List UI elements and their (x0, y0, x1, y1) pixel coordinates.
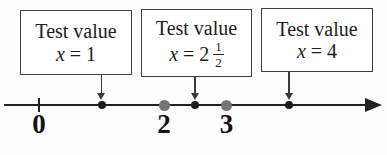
test-value-title: Test value (156, 17, 237, 39)
test-value-expression: x = 1 (56, 43, 96, 65)
variable-symbol: x (56, 43, 65, 65)
down-arrow (101, 75, 103, 93)
number-line-axis (4, 104, 368, 106)
variable-symbol: x (297, 40, 306, 62)
down-arrow (194, 77, 196, 93)
equals-sign: = (311, 40, 322, 62)
test-value-number: 1 (86, 43, 96, 65)
test-value-title: Test value (276, 18, 357, 40)
test-value-box-2: Test value x = 2 1 2 (141, 9, 252, 77)
right-arrowhead-icon (365, 98, 382, 112)
test-point-dot (98, 101, 106, 109)
test-value-title: Test value (35, 20, 116, 42)
variable-symbol: x (169, 43, 178, 65)
test-value-whole-number: 2 (199, 43, 209, 65)
down-arrow (288, 72, 290, 93)
tick-label: 3 (220, 110, 234, 140)
test-value-expression: x = 4 (297, 40, 337, 62)
boundary-point-dot (159, 100, 170, 111)
number-line-test-values-figure: Test value x = 1 Test value x = 2 1 2 Te… (0, 0, 387, 155)
tick-label: 2 (157, 110, 171, 140)
test-point-dot (191, 101, 199, 109)
test-value-expression: x = 2 1 2 (169, 40, 224, 69)
test-value-number: 4 (327, 40, 337, 62)
fraction-numerator: 1 (213, 40, 224, 55)
fraction: 1 2 (213, 40, 224, 69)
test-value-box-3: Test value x = 4 (261, 8, 373, 72)
tick-label: 0 (32, 110, 46, 140)
equals-sign: = (183, 43, 194, 65)
fraction-denominator: 2 (213, 55, 224, 69)
equals-sign: = (70, 43, 81, 65)
test-point-dot (285, 101, 293, 109)
test-value-box-1: Test value x = 1 (20, 10, 132, 75)
boundary-point-dot (221, 100, 232, 111)
